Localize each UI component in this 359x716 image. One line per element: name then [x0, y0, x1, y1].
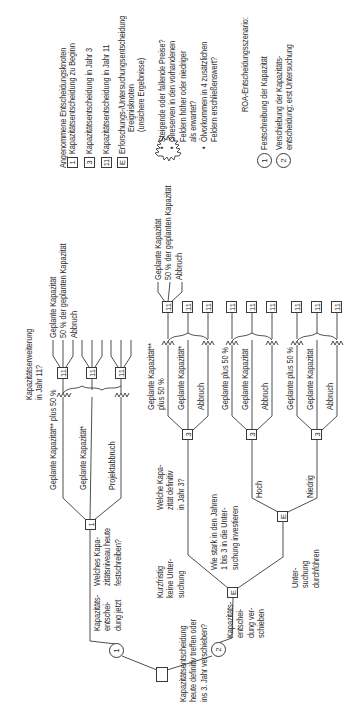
decision-node-11: 11: [266, 301, 277, 313]
legend-roa-circle-1: 1: [257, 153, 272, 168]
legend-decision-item: Kapazitätsentscheidung in Jahr 11: [101, 44, 111, 154]
legend-box-e: E: [117, 157, 128, 168]
legend-roa-item-1: Festschreibung der Kapazität: [259, 56, 269, 150]
legend-event-title: Ereignisknoten(unsichere Ergebnisse): [126, 58, 147, 132]
legend-box-3: 3: [84, 157, 95, 168]
decision-node-11: 11: [57, 367, 68, 379]
branch-label-planned: Geplante Kapazität*: [78, 426, 88, 490]
decision-node-11: 11: [246, 301, 257, 313]
year11-options-right: Geplante Kapazität50 % der geplanten Kap…: [153, 185, 184, 280]
g2-branch-plus50: Geplante plus 50 %: [220, 347, 230, 410]
exploration-node-e2: E: [277, 511, 288, 522]
g2-branch-planned: Geplante Kapazität: [240, 349, 250, 410]
g1-branch-plus50: Geplante Kapazität**plus 50 %: [146, 343, 167, 410]
legend-roa-circle-2: 2: [276, 153, 291, 168]
g3-branch-plus50: Geplante plus 50 %: [285, 347, 295, 410]
decision-node-11: 11: [202, 301, 213, 313]
year11-question: Kapazitätserweiterungin Jahr 11?: [24, 329, 45, 400]
g3-branch-planned: Geplante Kapazität: [305, 349, 315, 410]
scenario-1-circle: 1: [109, 643, 124, 658]
g2-branch-abort: Abbruch: [260, 383, 270, 410]
g1-branch-planned: Geplante Kapazität*: [176, 346, 186, 410]
decision-node-11: 11: [162, 301, 173, 313]
legend-box-11: 11: [101, 157, 112, 168]
scenario-2-branch-label: Kapazitäts-entschei-dung ver-schieben: [225, 602, 267, 638]
decision-node-11: 11: [331, 301, 342, 313]
year3-question: Welche Kapa-zität definitivin Jahr 3?: [155, 465, 186, 510]
decision-node-11: 11: [115, 367, 126, 379]
root-question: Kapazitätsentscheidungheute definitiv tr…: [178, 619, 209, 702]
result-high-label: Hoch: [254, 481, 264, 498]
node-1-question: Welches Kapa-zitätsniveau heutefestschre…: [92, 528, 123, 586]
exploration-node-e1: E: [227, 587, 238, 598]
e1-question: Wie stark in den Jahren1 bis 3 in die Un…: [209, 494, 240, 570]
decision-tree-diagram: Kapazitätsentscheidungheute definitiv tr…: [0, 0, 359, 716]
decision-node-3: 3: [182, 429, 193, 440]
legend-roa-title: ROA-Entscheidungsszenario:: [240, 17, 250, 112]
scenario-2-circle: 2: [211, 642, 226, 657]
no-study-label: Kurzfristigkeine Unter-suchung: [155, 559, 186, 598]
legend-decision-item: Kapazitätsentscheidung zu Beginn: [67, 43, 77, 154]
result-low-label: Niedrig: [305, 475, 315, 498]
decision-node-11: 11: [182, 301, 193, 313]
decision-node-11: 11: [86, 367, 97, 379]
g1-branch-abort: Abbruch: [196, 383, 206, 410]
g3-branch-abort: Abbruch: [325, 383, 335, 410]
branch-label-abort: Projektabbruch: [107, 441, 117, 490]
decision-node-11: 11: [226, 301, 237, 313]
decision-node-11: 11: [291, 301, 302, 313]
branch-label-plus50: Geplante Kapazität** plus 50 %: [48, 389, 58, 490]
decision-node-11: 11: [311, 301, 322, 313]
study-label: Unter-suchungdurchführen: [290, 550, 321, 588]
legend-box-1: 1: [67, 157, 78, 168]
scenario-1-branch-label: Kapazitäts-entschei-dung jetzt: [92, 595, 123, 631]
legend-decision-item: Kapazitätsentscheidung in Jahr 3: [84, 48, 94, 154]
decision-node-3: 3: [311, 429, 322, 440]
root-decision-box: [156, 667, 168, 682]
decision-node-3: 3: [246, 429, 257, 440]
legend-roa-item-2: Verschiebung der Kapazitäts-entscheidung…: [274, 44, 295, 150]
year11-options: Geplante Kapazität50 % der geplanten Kap…: [48, 243, 79, 338]
legend-event-items: Steigende oder fallende Preise? Ölreserv…: [157, 39, 219, 142]
